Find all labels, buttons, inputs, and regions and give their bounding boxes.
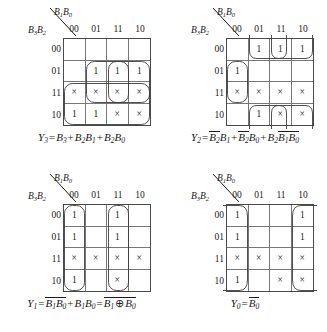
kmap-cell: ×	[270, 82, 292, 104]
column-header: 10	[292, 22, 314, 36]
kmap-cell	[249, 205, 271, 227]
kmap-cell: ×	[292, 248, 314, 270]
column-header: 00	[226, 188, 248, 202]
kmap-cell: 1	[64, 205, 86, 227]
kmap-cell: 1	[227, 227, 249, 249]
row-header: 00	[40, 210, 61, 220]
kmap-cell: ×	[270, 248, 292, 270]
column-header: 11	[107, 188, 129, 202]
kmap-cell: ×	[270, 104, 292, 126]
col-axis-label-y3: B1B0	[54, 7, 72, 18]
row-header: 01	[203, 232, 224, 242]
kmap-cell: 1	[107, 205, 129, 227]
kmap-cell	[86, 270, 108, 292]
kmap-cell: 1	[86, 104, 108, 126]
row-headers-y0: 00 01 11 10	[203, 204, 224, 292]
column-header: 11	[107, 22, 129, 36]
row-header: 11	[203, 88, 224, 98]
kmap-cell: ×	[292, 270, 314, 292]
column-header: 00	[63, 188, 85, 202]
kmap-panel-y1: B1B0 B3B2 00 01 11 10 00 01 11 10 1 1 1 …	[0, 166, 163, 332]
kmap-cell: 1	[227, 270, 249, 292]
kmap-grid-y1: 1 1 1 1 × × × × 1 ×	[63, 204, 151, 292]
kmap-cell	[129, 39, 151, 61]
equation-y1: Y1=B1B0+B1B0=B1⊕B0	[0, 297, 163, 311]
kmap-cell: 1	[292, 39, 314, 61]
kmap-cell: ×	[292, 82, 314, 104]
kmap-panel-y2: B1B0 B3B2 00 01 11 10 00 01 11 10 1 1 1 …	[163, 0, 327, 166]
row-header: 00	[203, 44, 224, 54]
row-headers-y3: 00 01 11 10	[40, 38, 61, 126]
row-header: 10	[203, 276, 224, 286]
column-headers-y0: 00 01 11 10	[226, 188, 314, 202]
kmap-cell: 1	[249, 39, 271, 61]
kmap-cell: ×	[249, 248, 271, 270]
kmap-cell: ×	[270, 270, 292, 292]
column-headers-y3: 00 01 11 10	[63, 22, 151, 36]
kmap-cell: 1	[227, 61, 249, 83]
kmap-cell: 1	[249, 104, 271, 126]
column-header: 01	[248, 188, 270, 202]
kmap-cell: ×	[107, 82, 129, 104]
column-headers-y2: 00 01 11 10	[226, 22, 314, 36]
row-header: 11	[40, 88, 61, 98]
kmap-cell: 1	[129, 61, 151, 83]
row-axis-label-y3: B3B2	[28, 25, 46, 36]
kmap-cell: ×	[227, 248, 249, 270]
row-axis-label-y0: B3B2	[191, 191, 209, 202]
kmap-cell: 1	[292, 227, 314, 249]
row-header: 01	[40, 66, 61, 76]
kmap-cell: ×	[86, 82, 108, 104]
equation-y2: Y2=B2B1+B2B0+B2B1B0	[163, 131, 327, 145]
kmap-panel-y0: B1B0 B3B2 00 01 11 10 00 01 11 10 1 1 1 …	[163, 166, 327, 332]
kmap-cell: 1	[86, 61, 108, 83]
row-header: 00	[40, 44, 61, 54]
col-axis-label-y1: B1B0	[54, 173, 72, 184]
row-header: 10	[40, 110, 61, 120]
kmap-cell	[107, 39, 129, 61]
kmap-cell	[129, 227, 151, 249]
kmap-cell: 1	[227, 205, 249, 227]
kmap-cell: 1	[64, 227, 86, 249]
row-header: 01	[203, 66, 224, 76]
column-header: 11	[270, 22, 292, 36]
kmap-cell	[86, 39, 108, 61]
kmap-cell	[86, 227, 108, 249]
kmap-cell: ×	[249, 82, 271, 104]
kmap-cell	[129, 205, 151, 227]
kmap-cell: ×	[86, 248, 108, 270]
kmap-cell	[64, 61, 86, 83]
kmap-cell: ×	[129, 248, 151, 270]
kmap-cell	[249, 270, 271, 292]
kmap-cell: 1	[107, 61, 129, 83]
kmap-cell	[227, 39, 249, 61]
col-axis-label-y0: B1B0	[217, 173, 235, 184]
kmap-cell	[249, 61, 271, 83]
kmap-cell: ×	[129, 82, 151, 104]
kmap-cell	[270, 61, 292, 83]
row-header: 01	[40, 232, 61, 242]
column-header: 01	[85, 188, 107, 202]
column-header: 00	[226, 22, 248, 36]
kmap-cell: ×	[64, 82, 86, 104]
column-header: 00	[63, 22, 85, 36]
column-header: 11	[270, 188, 292, 202]
kmap-panel-y3: B1B0 B3B2 00 01 11 10 00 01 11 10 1 1 1 …	[0, 0, 163, 166]
kmap-cell: 1	[292, 205, 314, 227]
kmap-figure: B1B0 B3B2 00 01 11 10 00 01 11 10 1 1 1 …	[0, 0, 327, 332]
kmap-cell: 1	[107, 227, 129, 249]
row-header: 10	[203, 110, 224, 120]
kmap-cell: 1	[270, 39, 292, 61]
kmap-grid-y2: 1 1 1 1 × × × × 1 × ×	[226, 38, 314, 126]
column-header: 10	[129, 188, 151, 202]
kmap-cell: ×	[107, 104, 129, 126]
kmap-cell: ×	[129, 104, 151, 126]
kmap-grid-y0: 1 1 1 1 × × × × 1 × ×	[226, 204, 314, 292]
equation-y0: Y0=B0	[163, 297, 327, 311]
row-headers-y2: 00 01 11 10	[203, 38, 224, 126]
kmap-grid-y3: 1 1 1 × × × × 1 1 × ×	[63, 38, 151, 126]
equation-y3: Y3=B3+B2B1+B2B0	[0, 131, 163, 145]
row-axis-label-y2: B3B2	[191, 25, 209, 36]
row-header: 11	[203, 254, 224, 264]
kmap-cell	[129, 270, 151, 292]
